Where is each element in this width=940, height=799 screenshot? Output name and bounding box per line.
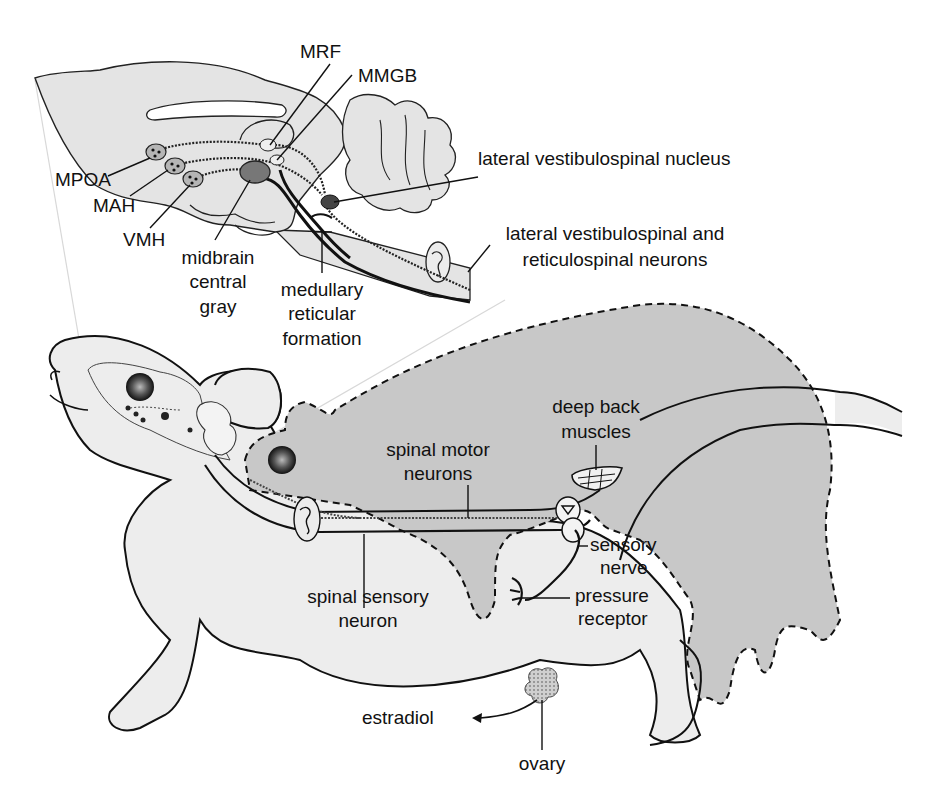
label-medullary-reticular-formation-3: formation: [282, 327, 361, 351]
label-mmgb: MMGB: [358, 64, 417, 88]
label-spinal-sensory-neuron-2: neuron: [338, 609, 397, 633]
label-sensory-nerve-1: sensory: [590, 533, 657, 557]
label-pressure-receptor-1: pressure: [575, 584, 649, 608]
tail: [835, 392, 902, 436]
label-mrf: MRF: [300, 40, 341, 64]
label-midbrain-central-gray-2: central: [189, 270, 246, 294]
spinal-cross-section-neck: [294, 497, 320, 541]
ovary: [525, 668, 558, 703]
diagram-artwork: [0, 0, 940, 799]
label-estradiol: estradiol: [362, 706, 434, 730]
label-sensory-nerve-2: nerve: [600, 556, 648, 580]
label-lateral-vestibulospinal-reticulospinal-2: reticulospinal neurons: [523, 248, 708, 272]
label-medullary-reticular-formation-1: medullary: [281, 278, 363, 302]
label-deep-back-muscles-2: muscles: [561, 420, 631, 444]
label-mah: MAH: [93, 194, 135, 218]
label-midbrain-central-gray-3: gray: [200, 295, 237, 319]
midbrain-central-gray-nucleus: [240, 161, 270, 183]
label-spinal-motor-neurons-2: neurons: [404, 462, 473, 486]
mpoa-nucleus: [146, 144, 166, 160]
vmh-nucleus: [183, 171, 203, 187]
label-ovary: ovary: [519, 752, 565, 776]
label-mpoa: MPOA: [55, 168, 111, 192]
label-medullary-reticular-formation-2: reticular: [288, 302, 356, 326]
rat-eye-lordosis: [268, 446, 296, 474]
label-deep-back-muscles-1: deep back: [552, 395, 640, 419]
rat-body: [50, 304, 902, 750]
label-lateral-vestibulospinal-reticulospinal-1: lateral vestibulospinal and: [506, 222, 725, 246]
rat-eye: [126, 373, 154, 401]
label-midbrain-central-gray-1: midbrain: [182, 246, 255, 270]
brain-outline: [35, 62, 346, 232]
lordosis-circuit-diagram: MRF MMGB MPOA MAH VMH midbrain central g…: [0, 0, 940, 799]
mah-nucleus: [165, 158, 185, 174]
label-spinal-sensory-neuron-1: spinal sensory: [307, 585, 428, 609]
label-spinal-motor-neurons-1: spinal motor: [386, 438, 490, 462]
label-lateral-vestibulospinal-nucleus: lateral vestibulospinal nucleus: [478, 147, 730, 171]
label-pressure-receptor-2: receptor: [578, 607, 648, 631]
label-vmh: VMH: [123, 228, 165, 252]
cerebellum: [343, 95, 456, 213]
